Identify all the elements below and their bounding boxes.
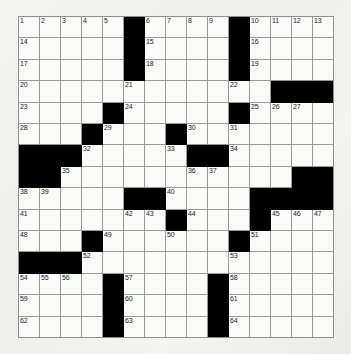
grid-open-cell[interactable] — [61, 38, 82, 59]
grid-open-cell[interactable]: 17 — [19, 60, 40, 81]
grid-open-cell[interactable] — [271, 38, 292, 59]
grid-open-cell[interactable] — [166, 60, 187, 81]
grid-open-cell[interactable] — [61, 317, 82, 338]
grid-open-cell[interactable]: 14 — [19, 38, 40, 59]
grid-open-cell[interactable] — [229, 167, 250, 188]
grid-open-cell[interactable] — [145, 145, 166, 166]
grid-open-cell[interactable]: 50 — [166, 231, 187, 252]
grid-open-cell[interactable] — [313, 231, 334, 252]
grid-open-cell[interactable] — [166, 295, 187, 316]
grid-open-cell[interactable]: 56 — [61, 274, 82, 295]
grid-open-cell[interactable] — [208, 38, 229, 59]
grid-open-cell[interactable]: 42 — [124, 210, 145, 231]
grid-open-cell[interactable] — [292, 317, 313, 338]
grid-open-cell[interactable] — [103, 60, 124, 81]
grid-open-cell[interactable] — [82, 38, 103, 59]
grid-open-cell[interactable]: 61 — [229, 295, 250, 316]
grid-open-cell[interactable] — [208, 252, 229, 273]
grid-open-cell[interactable] — [40, 210, 61, 231]
grid-open-cell[interactable]: 13 — [313, 17, 334, 38]
grid-open-cell[interactable]: 46 — [292, 210, 313, 231]
grid-open-cell[interactable] — [313, 38, 334, 59]
grid-open-cell[interactable] — [313, 252, 334, 273]
grid-open-cell[interactable]: 51 — [250, 231, 271, 252]
grid-open-cell[interactable] — [313, 124, 334, 145]
grid-open-cell[interactable] — [61, 295, 82, 316]
grid-open-cell[interactable] — [166, 103, 187, 124]
grid-open-cell[interactable] — [187, 103, 208, 124]
grid-open-cell[interactable]: 16 — [250, 38, 271, 59]
grid-open-cell[interactable]: 62 — [19, 317, 40, 338]
grid-open-cell[interactable] — [313, 145, 334, 166]
grid-open-cell[interactable] — [40, 60, 61, 81]
grid-open-cell[interactable]: 2 — [40, 17, 61, 38]
grid-open-cell[interactable] — [40, 231, 61, 252]
grid-open-cell[interactable] — [208, 60, 229, 81]
grid-open-cell[interactable] — [40, 317, 61, 338]
grid-open-cell[interactable] — [82, 274, 103, 295]
grid-open-cell[interactable]: 20 — [19, 81, 40, 102]
grid-open-cell[interactable]: 4 — [82, 17, 103, 38]
grid-open-cell[interactable]: 30 — [187, 124, 208, 145]
grid-open-cell[interactable] — [187, 38, 208, 59]
grid-open-cell[interactable]: 18 — [145, 60, 166, 81]
grid-open-cell[interactable]: 21 — [124, 81, 145, 102]
crossword-grid[interactable]: 1234567891011121314151617181920212223242… — [18, 16, 334, 338]
grid-open-cell[interactable]: 23 — [19, 103, 40, 124]
grid-open-cell[interactable]: 12 — [292, 17, 313, 38]
grid-open-cell[interactable] — [292, 145, 313, 166]
grid-open-cell[interactable] — [229, 210, 250, 231]
grid-open-cell[interactable] — [145, 274, 166, 295]
grid-open-cell[interactable] — [145, 317, 166, 338]
grid-open-cell[interactable] — [82, 210, 103, 231]
grid-open-cell[interactable] — [40, 103, 61, 124]
grid-open-cell[interactable] — [271, 295, 292, 316]
grid-open-cell[interactable] — [250, 295, 271, 316]
grid-open-cell[interactable]: 34 — [229, 145, 250, 166]
grid-open-cell[interactable] — [187, 188, 208, 209]
grid-open-cell[interactable] — [271, 274, 292, 295]
grid-open-cell[interactable] — [124, 231, 145, 252]
grid-open-cell[interactable]: 10 — [250, 17, 271, 38]
grid-open-cell[interactable] — [187, 295, 208, 316]
grid-open-cell[interactable] — [103, 210, 124, 231]
grid-open-cell[interactable] — [187, 317, 208, 338]
grid-open-cell[interactable] — [61, 124, 82, 145]
grid-open-cell[interactable] — [61, 188, 82, 209]
grid-open-cell[interactable] — [313, 295, 334, 316]
grid-open-cell[interactable] — [61, 231, 82, 252]
grid-open-cell[interactable] — [82, 167, 103, 188]
grid-open-cell[interactable] — [40, 81, 61, 102]
grid-open-cell[interactable]: 63 — [124, 317, 145, 338]
grid-open-cell[interactable]: 64 — [229, 317, 250, 338]
grid-open-cell[interactable]: 53 — [229, 252, 250, 273]
grid-open-cell[interactable] — [292, 295, 313, 316]
grid-open-cell[interactable] — [61, 103, 82, 124]
grid-open-cell[interactable]: 33 — [166, 145, 187, 166]
grid-open-cell[interactable]: 49 — [103, 231, 124, 252]
grid-open-cell[interactable]: 3 — [61, 17, 82, 38]
grid-open-cell[interactable] — [250, 81, 271, 102]
grid-open-cell[interactable] — [103, 145, 124, 166]
grid-open-cell[interactable]: 22 — [229, 81, 250, 102]
grid-open-cell[interactable] — [145, 231, 166, 252]
grid-open-cell[interactable] — [250, 167, 271, 188]
grid-open-cell[interactable] — [82, 81, 103, 102]
grid-open-cell[interactable]: 45 — [271, 210, 292, 231]
grid-open-cell[interactable] — [292, 60, 313, 81]
grid-open-cell[interactable] — [271, 145, 292, 166]
grid-open-cell[interactable] — [103, 38, 124, 59]
grid-open-cell[interactable] — [313, 60, 334, 81]
grid-open-cell[interactable] — [271, 252, 292, 273]
grid-open-cell[interactable] — [271, 167, 292, 188]
grid-open-cell[interactable]: 40 — [166, 188, 187, 209]
grid-open-cell[interactable] — [103, 188, 124, 209]
grid-open-cell[interactable] — [292, 38, 313, 59]
grid-open-cell[interactable]: 37 — [208, 167, 229, 188]
grid-open-cell[interactable] — [145, 81, 166, 102]
grid-open-cell[interactable] — [82, 60, 103, 81]
grid-open-cell[interactable] — [145, 167, 166, 188]
grid-open-cell[interactable]: 36 — [187, 167, 208, 188]
grid-open-cell[interactable] — [292, 252, 313, 273]
grid-open-cell[interactable] — [271, 60, 292, 81]
